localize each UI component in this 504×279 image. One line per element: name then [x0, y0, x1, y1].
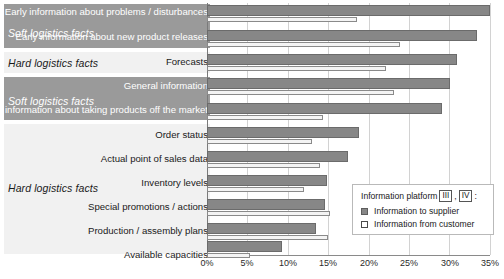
bar-customer — [207, 66, 386, 71]
bar-supplier — [207, 241, 282, 252]
bar-customer — [207, 90, 394, 95]
category-label: Production / assembly plans — [88, 225, 208, 236]
bar-customer — [207, 17, 357, 22]
bar-supplier — [207, 223, 316, 234]
legend-title-prefix: Information platform — [361, 191, 437, 201]
category-label: General information — [124, 80, 208, 91]
legend-swatch-supplier-icon — [361, 208, 368, 215]
bar-customer — [207, 115, 323, 120]
legend-item-supplier: Information to supplier — [361, 206, 487, 216]
category-label: Available capacities — [124, 249, 208, 260]
category-label: Special promotions / actions — [88, 201, 208, 212]
bar-supplier — [207, 30, 477, 41]
xtick-2: 10% — [279, 258, 297, 268]
bar-supplier — [207, 151, 348, 162]
legend-platform-4-badge: IV — [459, 190, 473, 202]
legend-swatch-customer-icon — [361, 221, 368, 228]
legend-title-suffix: : — [474, 191, 476, 201]
category-label: Early information about problems / distu… — [5, 6, 208, 17]
category-label: Early information about taking products … — [0, 104, 208, 115]
xtick-3: 15% — [319, 258, 337, 268]
bar-supplier — [207, 199, 325, 210]
bar-supplier — [207, 127, 359, 138]
xtick-1: 5% — [240, 258, 253, 268]
xtick-4: 20% — [360, 258, 378, 268]
legend-item-customer: Information from customer — [361, 219, 487, 229]
legend-label-supplier: Information to supplier — [374, 206, 459, 216]
bar-supplier — [207, 175, 327, 186]
group-label-hard-2: Hard logistics facts — [8, 182, 98, 194]
chart-legend: Information platform III , IV : Informat… — [352, 184, 494, 235]
bar-customer — [207, 187, 304, 192]
category-label: Forecasts — [166, 56, 208, 67]
legend-label-customer: Information from customer — [374, 219, 474, 229]
category-label: Order status — [155, 129, 208, 140]
xtick-0: 0% — [200, 258, 213, 268]
category-label: Inventory levels — [141, 177, 208, 188]
legend-platform-3-badge: III — [439, 190, 452, 202]
bar-customer — [207, 211, 330, 216]
category-label: Early information about new product rele… — [15, 31, 208, 42]
bar-supplier — [207, 103, 442, 114]
bar-supplier — [207, 5, 490, 16]
bar-customer — [207, 139, 312, 144]
group-label-hard-1: Hard logistics facts — [8, 57, 98, 69]
bar-supplier — [207, 54, 457, 65]
xtick-6: 30% — [441, 258, 459, 268]
xtick-7: 35% — [481, 258, 499, 268]
legend-title: Information platform III , IV : — [361, 190, 487, 202]
horizontal-bar-chart: Soft logistics facts Hard logistics fact… — [0, 0, 504, 279]
legend-platform-separator: , — [454, 191, 456, 201]
bar-customer — [207, 235, 328, 240]
bar-customer — [207, 163, 320, 168]
bar-customer — [207, 42, 400, 47]
xtick-5: 25% — [400, 258, 418, 268]
category-label: Actual point of sales data — [101, 153, 208, 164]
bar-supplier — [207, 78, 450, 89]
